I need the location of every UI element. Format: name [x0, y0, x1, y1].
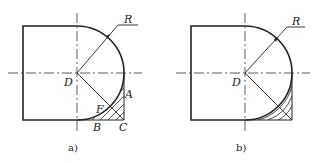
label-A: A [124, 88, 133, 101]
label-F: F [95, 103, 104, 116]
label-C: C [119, 121, 128, 134]
diagram-canvas: R D F A B C a) R D b) [0, 0, 312, 163]
label-D: D [63, 76, 73, 89]
part-outline [191, 26, 292, 120]
label-D: D [231, 76, 241, 89]
radius-leader [245, 27, 287, 73]
label-B: B [92, 121, 101, 134]
figure-a: R D F A B C a) [8, 13, 142, 153]
caption-a: a) [68, 142, 78, 153]
figure-b: R D b) [176, 13, 310, 153]
caption-b: b) [236, 142, 246, 153]
label-R: R [291, 15, 300, 28]
part-outline [23, 26, 124, 120]
radius-leader [77, 25, 118, 73]
label-R: R [123, 13, 132, 26]
